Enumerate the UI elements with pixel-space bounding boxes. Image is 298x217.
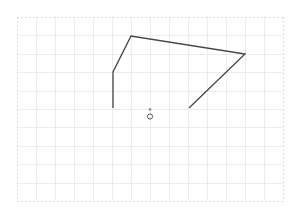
center-dot-marker	[149, 108, 152, 111]
background	[0, 0, 298, 217]
diagram-canvas	[0, 0, 298, 217]
